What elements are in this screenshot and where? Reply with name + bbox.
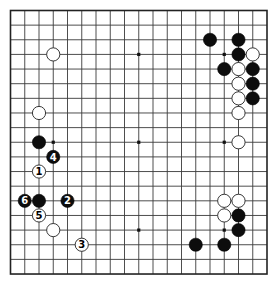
move-number-label: 6 bbox=[21, 195, 28, 206]
white-stone[interactable] bbox=[218, 194, 231, 207]
move-number-label: 3 bbox=[78, 239, 85, 250]
move-number-label: 5 bbox=[36, 210, 43, 221]
black-stone-icon bbox=[189, 238, 202, 251]
black-stone-icon bbox=[232, 33, 245, 46]
black-stone-icon bbox=[203, 33, 216, 46]
numbered-stone-5[interactable]: 5 bbox=[32, 209, 45, 222]
white-stone-icon bbox=[218, 194, 231, 207]
white-stone[interactable] bbox=[218, 209, 231, 222]
black-stone[interactable] bbox=[232, 209, 245, 222]
star-point-icon bbox=[52, 141, 55, 144]
numbered-stone-2[interactable]: 2 bbox=[61, 194, 74, 207]
numbered-stone-3[interactable]: 3 bbox=[75, 238, 88, 251]
move-number-label: 4 bbox=[50, 152, 57, 163]
move-number-label: 1 bbox=[36, 166, 43, 177]
black-stone[interactable] bbox=[218, 62, 231, 75]
star-point-icon bbox=[223, 141, 226, 144]
black-stone-icon bbox=[246, 77, 259, 90]
black-stone-icon bbox=[232, 224, 245, 237]
black-stone-icon bbox=[218, 62, 231, 75]
numbered-stone-4[interactable]: 4 bbox=[47, 150, 60, 163]
white-stone-icon bbox=[32, 106, 45, 119]
white-stone[interactable] bbox=[47, 224, 60, 237]
numbered-stone-6[interactable]: 6 bbox=[18, 194, 31, 207]
white-stone-icon bbox=[232, 92, 245, 105]
white-stone[interactable] bbox=[232, 136, 245, 149]
black-stone-icon bbox=[232, 209, 245, 222]
white-stone-icon bbox=[47, 224, 60, 237]
black-stone[interactable] bbox=[246, 92, 259, 105]
numbered-stone-1[interactable]: 1 bbox=[32, 165, 45, 178]
black-stone-icon bbox=[232, 48, 245, 61]
black-stone-icon bbox=[32, 194, 45, 207]
move-number-label: 2 bbox=[64, 195, 71, 206]
white-stone-icon bbox=[47, 48, 60, 61]
white-stone[interactable] bbox=[232, 106, 245, 119]
black-stone[interactable] bbox=[232, 48, 245, 61]
white-stone-icon bbox=[232, 106, 245, 119]
white-stone[interactable] bbox=[232, 92, 245, 105]
white-stone[interactable] bbox=[232, 194, 245, 207]
go-board[interactable]: 123456 bbox=[0, 0, 275, 287]
white-stone-icon bbox=[232, 194, 245, 207]
white-stone[interactable] bbox=[32, 106, 45, 119]
star-point-icon bbox=[223, 53, 226, 56]
black-stone[interactable] bbox=[32, 136, 45, 149]
star-point-icon bbox=[137, 141, 140, 144]
black-stone[interactable] bbox=[32, 194, 45, 207]
star-point-icon bbox=[137, 53, 140, 56]
white-stone[interactable] bbox=[47, 48, 60, 61]
white-stone-icon bbox=[246, 48, 259, 61]
black-stone[interactable] bbox=[218, 238, 231, 251]
black-stone[interactable] bbox=[246, 77, 259, 90]
white-stone[interactable] bbox=[232, 77, 245, 90]
star-point-icon bbox=[137, 229, 140, 232]
black-stone-icon bbox=[32, 136, 45, 149]
white-stone[interactable] bbox=[246, 48, 259, 61]
black-stone[interactable] bbox=[203, 33, 216, 46]
black-stone-icon bbox=[246, 62, 259, 75]
white-stone-icon bbox=[232, 136, 245, 149]
white-stone-icon bbox=[232, 77, 245, 90]
white-stone-icon bbox=[232, 62, 245, 75]
white-stone-icon bbox=[218, 209, 231, 222]
black-stone-icon bbox=[246, 92, 259, 105]
black-stone[interactable] bbox=[232, 33, 245, 46]
white-stone[interactable] bbox=[232, 62, 245, 75]
black-stone[interactable] bbox=[232, 224, 245, 237]
black-stone[interactable] bbox=[246, 62, 259, 75]
black-stone-icon bbox=[218, 238, 231, 251]
star-point-icon bbox=[223, 229, 226, 232]
black-stone[interactable] bbox=[189, 238, 202, 251]
